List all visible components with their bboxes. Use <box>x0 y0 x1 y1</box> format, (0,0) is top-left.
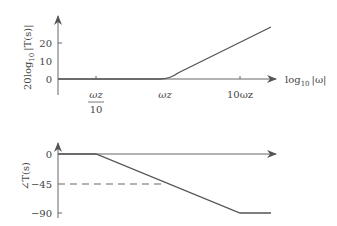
phase-plot: 0 −45 −90 ∠T(s) <box>20 143 276 219</box>
bode-diagram: 20 10 0 20log10|T(s)| ωz 10 ωz 10ωz log1… <box>0 0 337 226</box>
mag-tick-0-label: 0 <box>46 74 52 85</box>
svg-text:20log10|T(s)|: 20log10|T(s)| <box>22 24 36 90</box>
x-tick-wz10-den: 10 <box>90 104 103 115</box>
magnitude-plot: 20 10 0 20log10|T(s)| ωz 10 ωz 10ωz log1… <box>22 16 326 115</box>
svg-text:∠T(s): ∠T(s) <box>20 162 31 190</box>
phase-y-label: ∠T(s) <box>20 162 31 190</box>
x-axis-label: log10|ω| <box>285 74 326 88</box>
mag-tick-10-label: 10 <box>39 56 52 67</box>
mag-tick-20-label: 20 <box>39 38 52 49</box>
x-tick-10wz: 10ωz <box>227 89 253 100</box>
x-tick-wz10-num: ωz <box>89 89 103 100</box>
x-tick-wz: ωz <box>158 89 172 100</box>
phase-tick-45-label: −45 <box>31 179 52 190</box>
phase-curve <box>58 154 271 213</box>
magnitude-curve <box>58 27 271 79</box>
mag-y-label: 20log10|T(s)| <box>22 24 36 90</box>
phase-tick-0-label: 0 <box>46 149 52 160</box>
phase-tick-90-label: −90 <box>31 208 52 219</box>
